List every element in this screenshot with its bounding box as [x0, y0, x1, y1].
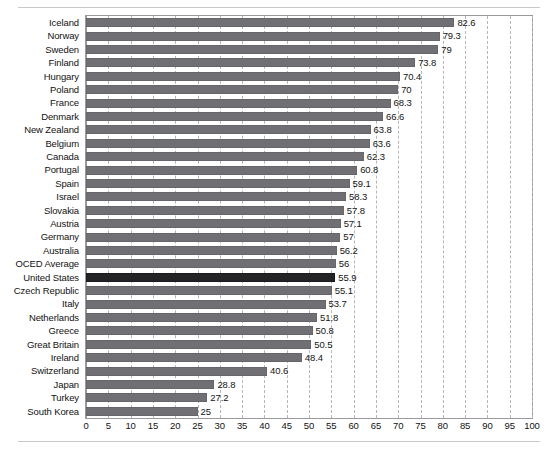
bar-value-label: 57.8 [347, 206, 365, 216]
x-tick-label-35: 35 [237, 421, 247, 431]
category-label-austria: Austria [50, 217, 79, 230]
category-label-new-zealand: New Zealand [24, 123, 79, 136]
category-label-ireland: Ireland [51, 351, 79, 364]
bar-row: 53.7 [86, 297, 532, 310]
bar-value-label: 70.4 [403, 72, 421, 82]
category-label-belgium: Belgium [45, 137, 79, 150]
category-label-israel: Israel [56, 190, 79, 203]
x-tick-label-50: 50 [304, 421, 314, 431]
bar-row: 70 [86, 83, 532, 96]
x-tick-label-30: 30 [215, 421, 225, 431]
gridline-100 [532, 16, 533, 418]
x-tick-label-15: 15 [148, 421, 158, 431]
category-label-great-britain: Great Britain [27, 338, 79, 351]
bar-row: 82.6 [86, 16, 532, 29]
bar-hungary [86, 72, 400, 81]
bar-value-label: 68.3 [394, 98, 412, 108]
bar-value-label: 51.8 [320, 313, 338, 323]
bar-row: 66.6 [86, 110, 532, 123]
category-label-japan: Japan [54, 378, 79, 391]
bar-value-label: 59.1 [353, 179, 371, 189]
bar-austria [86, 219, 341, 228]
bar-row: 59.1 [86, 177, 532, 190]
bar-row: 56 [86, 257, 532, 270]
bar-value-label: 79.3 [443, 31, 461, 41]
bar-value-label: 50.5 [314, 340, 332, 350]
category-label-south-korea: South Korea [27, 405, 79, 418]
bar-value-label: 70 [401, 85, 411, 95]
category-label-oced-average: OCED Average [15, 257, 79, 270]
bar-switzerland [86, 367, 267, 376]
x-tick-label-65: 65 [371, 421, 381, 431]
bar-row: 27.2 [86, 391, 532, 404]
bar-norway [86, 32, 440, 41]
category-label-poland: Poland [50, 83, 79, 96]
x-tick-label-5: 5 [106, 421, 111, 431]
category-label-france: France [50, 96, 79, 109]
bar-value-label: 66.6 [386, 112, 404, 122]
bar-israel [86, 192, 346, 201]
category-label-greece: Greece [48, 324, 79, 337]
bar-turkey [86, 393, 207, 402]
bar-oced-average [86, 259, 336, 268]
bar-value-label: 55.1 [335, 286, 353, 296]
bar-value-label: 28.8 [217, 380, 235, 390]
bar-row: 51.8 [86, 311, 532, 324]
bar-row: 63.8 [86, 123, 532, 136]
bar-value-label: 63.6 [373, 139, 391, 149]
bar-value-label: 58.3 [349, 192, 367, 202]
x-tick-label-45: 45 [282, 421, 292, 431]
x-tick-label-80: 80 [438, 421, 448, 431]
category-label-italy: Italy [62, 297, 79, 310]
bar-row: 55.1 [86, 284, 532, 297]
bar-row: 50.5 [86, 338, 532, 351]
x-tick-label-70: 70 [393, 421, 403, 431]
bar-row: 28.8 [86, 378, 532, 391]
bar-row: 40.6 [86, 364, 532, 377]
x-tick-label-40: 40 [259, 421, 269, 431]
horizontal-bar-chart: IcelandNorwaySwedenFinlandHungaryPolandF… [0, 0, 558, 450]
category-label-portugal: Portugal [44, 163, 79, 176]
bar-row: 73.8 [86, 56, 532, 69]
category-label-germany: Germany [41, 230, 79, 243]
bar-finland [86, 58, 415, 67]
category-label-switzerland: Switzerland [31, 364, 79, 377]
category-label-slovakia: Slovakia [44, 204, 79, 217]
bar-value-label: 63.8 [374, 125, 392, 135]
bar-value-label: 48.4 [305, 353, 323, 363]
bar-value-label: 40.6 [270, 366, 288, 376]
bar-row: 62.3 [86, 150, 532, 163]
category-label-sweden: Sweden [45, 43, 79, 56]
category-label-norway: Norway [47, 29, 79, 42]
bar-row: 57.1 [86, 217, 532, 230]
category-axis-labels: IcelandNorwaySwedenFinlandHungaryPolandF… [0, 15, 82, 419]
bar-united-states [86, 273, 335, 282]
x-tick-label-95: 95 [505, 421, 515, 431]
bar-row: 68.3 [86, 96, 532, 109]
category-label-united-states: United States [23, 271, 79, 284]
bar-france [86, 99, 391, 108]
bar-canada [86, 152, 364, 161]
bar-row: 60.8 [86, 163, 532, 176]
bar-value-label: 55.9 [338, 273, 356, 283]
bar-japan [86, 380, 214, 389]
category-label-denmark: Denmark [41, 110, 79, 123]
x-tick-label-75: 75 [415, 421, 425, 431]
bar-value-label: 57.1 [344, 219, 362, 229]
bar-value-label: 73.8 [418, 58, 436, 68]
bar-value-label: 53.7 [329, 299, 347, 309]
bar-row: 57 [86, 230, 532, 243]
bar-row: 50.8 [86, 324, 532, 337]
bars-layer: 82.679.37973.870.47068.366.663.863.662.3… [86, 16, 532, 418]
value-axis-tick-labels: 0510152025303540455055606570758085909510… [85, 421, 533, 437]
category-label-iceland: Iceland [49, 16, 79, 29]
bar-value-label: 25 [201, 407, 211, 417]
bar-czech-republic [86, 286, 332, 295]
bar-row: 79.3 [86, 29, 532, 42]
x-tick-label-60: 60 [348, 421, 358, 431]
bar-germany [86, 233, 340, 242]
bar-value-label: 60.8 [360, 165, 378, 175]
x-tick-label-100: 100 [524, 421, 540, 431]
bar-netherlands [86, 313, 317, 322]
category-label-finland: Finland [49, 56, 79, 69]
